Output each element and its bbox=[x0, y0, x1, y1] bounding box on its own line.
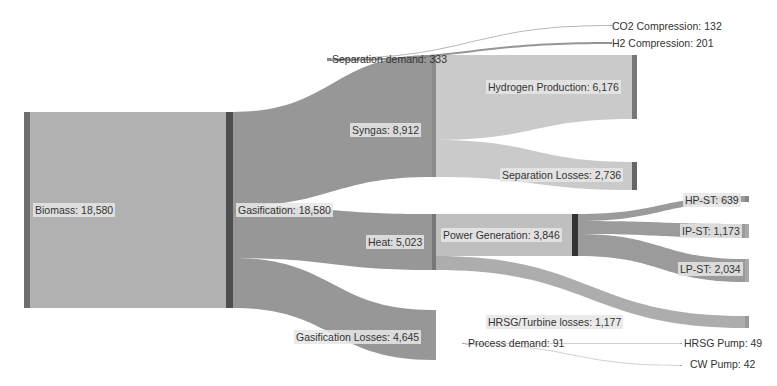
node-sep_losses[interactable] bbox=[632, 162, 637, 190]
label-hrsg_losses: HRSG/Turbine losses: 1,177 bbox=[486, 315, 623, 329]
node-cw_pump[interactable] bbox=[680, 365, 682, 366]
node-biomass[interactable] bbox=[24, 112, 30, 308]
node-ip_st[interactable] bbox=[745, 224, 749, 238]
node-gas_losses[interactable] bbox=[432, 310, 436, 360]
label-cw_pump: CW Pump: 42 bbox=[688, 357, 757, 371]
node-h2_prod[interactable] bbox=[632, 55, 637, 119]
link-syngas-to-h2_prod[interactable] bbox=[436, 55, 632, 140]
label-sep_losses: Separation Losses: 2,736 bbox=[500, 168, 623, 182]
label-gasification: Gasification: 18,580 bbox=[236, 203, 333, 217]
label-h2_prod: Hydrogen Production: 6,176 bbox=[486, 80, 621, 94]
label-co2_comp: CO2 Compression: 132 bbox=[610, 19, 724, 33]
label-h2_comp: H2 Compression: 201 bbox=[610, 36, 716, 50]
label-syngas: Syngas: 8,912 bbox=[350, 123, 421, 137]
node-hrsg_losses[interactable] bbox=[745, 316, 749, 328]
label-sep_demand: Separation demand: 333 bbox=[330, 52, 449, 66]
node-heat[interactable] bbox=[432, 214, 436, 270]
label-biomass: Biomass: 18,580 bbox=[33, 203, 115, 217]
label-proc_demand: Process demand: 91 bbox=[466, 336, 566, 350]
label-ip_st: IP-ST: 1,173 bbox=[680, 224, 742, 238]
node-proc_demand[interactable] bbox=[462, 343, 465, 344]
link-syngas-to-sep_losses[interactable] bbox=[436, 140, 632, 190]
node-hp_st[interactable] bbox=[745, 196, 749, 202]
label-power_gen: Power Generation: 3,846 bbox=[441, 228, 562, 242]
label-hrsg_pump: HRSG Pump: 49 bbox=[682, 336, 764, 350]
label-heat: Heat: 5,023 bbox=[366, 235, 424, 249]
label-lp_st: LP-ST: 2,034 bbox=[678, 262, 743, 276]
label-gas_losses: Gasification Losses: 4,645 bbox=[294, 330, 421, 344]
label-hp_st: HP-ST: 639 bbox=[683, 193, 741, 207]
node-syngas[interactable] bbox=[432, 55, 436, 177]
node-lp_st[interactable] bbox=[745, 259, 749, 282]
node-gasification[interactable] bbox=[226, 112, 233, 308]
link-gasification-to-gas_losses[interactable] bbox=[233, 258, 432, 360]
node-power_gen[interactable] bbox=[572, 214, 578, 256]
sankey-links bbox=[30, 25, 745, 366]
